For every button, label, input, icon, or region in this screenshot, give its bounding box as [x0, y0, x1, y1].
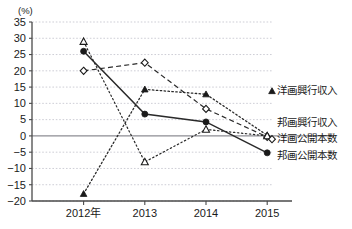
x-tick-label: 2014	[194, 207, 218, 219]
x-tick-label: 2012年	[66, 206, 101, 219]
line-chart: 35302520151050−5−10−15−20 2012年201320142…	[0, 0, 352, 229]
y-tick-label: 20	[14, 65, 26, 77]
legend: 洋画興行収入邦画興行収入洋画公開本数邦画公開本数	[269, 84, 338, 160]
legend-item: 洋画公開本数	[269, 132, 338, 144]
series-group	[80, 38, 271, 197]
data-point	[142, 111, 148, 117]
grid-group	[32, 22, 272, 201]
x-tick-label: 2013	[133, 207, 157, 219]
data-point	[264, 150, 270, 156]
y-tick-label: −5	[13, 146, 26, 158]
series-line	[84, 42, 268, 162]
x-tick-labels: 2012年201320142015	[66, 206, 280, 219]
y-tick-label: −15	[7, 179, 26, 191]
legend-item: 洋画興行収入	[269, 84, 338, 96]
series-line	[84, 63, 268, 137]
y-tick-label: −10	[7, 162, 26, 174]
legend-marker	[269, 88, 276, 94]
data-point	[81, 48, 87, 54]
y-tick-label: 25	[14, 48, 26, 60]
data-point	[80, 67, 87, 74]
series-3	[80, 38, 271, 165]
series-0	[80, 86, 270, 196]
y-tick-label: 30	[14, 32, 26, 44]
data-point	[203, 119, 209, 125]
y-tick-label: −20	[7, 195, 26, 207]
series-1	[81, 48, 271, 156]
y-tick-label: 35	[14, 16, 26, 28]
chart-container: 35302520151050−5−10−15−20 2012年201320142…	[0, 0, 352, 229]
data-point	[141, 158, 148, 164]
series-2	[80, 59, 270, 140]
y-tick-label: 0	[20, 130, 26, 142]
y-tick-label: 5	[20, 113, 26, 125]
data-point	[142, 86, 149, 92]
y-tick-labels: 35302520151050−5−10−15−20	[7, 16, 26, 207]
x-tick-label: 2015	[255, 207, 279, 219]
legend-item: 邦画公開本数	[277, 149, 338, 161]
data-point	[141, 59, 148, 66]
legend-label: 洋画公開本数	[277, 132, 338, 144]
series-line	[84, 51, 268, 153]
legend-item: 邦画興行収入	[277, 116, 338, 128]
legend-label: 邦画興行収入	[277, 116, 338, 128]
data-point	[80, 191, 87, 197]
legend-label: 洋画興行収入	[277, 84, 338, 96]
data-point	[80, 38, 87, 44]
data-point	[203, 126, 210, 132]
axes-group	[29, 22, 292, 205]
y-tick-label: 10	[14, 97, 26, 109]
legend-label: 邦画公開本数	[277, 149, 338, 161]
y-axis-unit-label: (%)	[18, 5, 33, 16]
series-line	[84, 89, 268, 193]
y-tick-label: 15	[14, 81, 26, 93]
